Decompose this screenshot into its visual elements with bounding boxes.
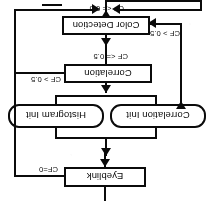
- node-correlation[interactable]: Correlation: [64, 64, 152, 83]
- node-eyeblink[interactable]: Eyeblink: [64, 167, 146, 187]
- node-correlation-label: Correlation: [84, 68, 132, 79]
- eyeblink-cf0-line: [14, 175, 64, 177]
- left-inner-arrowhead: [176, 101, 186, 109]
- left-inner-rail: [180, 25, 182, 103]
- junction-bar-left: [120, 9, 202, 11]
- outer-loop-top-left: [106, 0, 202, 2]
- edge-label-correlation-out: CF <= 0.5: [93, 52, 128, 61]
- eyeblink-in-arrowhead: [100, 159, 110, 167]
- outer-loop-top: [42, 4, 62, 6]
- node-histogram-init-label: Histogram Init: [26, 111, 86, 122]
- colordetection-in-line: [105, 35, 107, 43]
- node-histogram-init[interactable]: Histogram Init: [8, 104, 104, 128]
- node-correlation-init-label: Correlation Init: [126, 111, 189, 122]
- init-bracket-bottom: [55, 95, 157, 97]
- node-color-detection[interactable]: Color Detection: [62, 16, 150, 35]
- node-correlation-init[interactable]: Correlation Init: [110, 104, 206, 128]
- edge-label-eyeblink-out: CF=0: [39, 165, 58, 174]
- init-bracket-bl: [155, 96, 157, 105]
- node-eyeblink-label: Eyeblink: [87, 172, 124, 183]
- node-color-detection-label: Color Detection: [73, 20, 140, 31]
- init-bracket-br: [55, 96, 57, 105]
- junction-bar-right: [14, 9, 96, 11]
- eyeblink-out-stem: [104, 187, 106, 201]
- correlation-in-line2: [105, 81, 107, 93]
- diagram-canvas: Eyeblink Correlation Init Histogram Init…: [0, 0, 216, 201]
- colordetection-back-arrowhead: [148, 18, 156, 28]
- edge-label-colordetection-back: CF > 0.5: [150, 29, 180, 38]
- edge-label-correlation-back: CF > 0.5: [31, 75, 61, 84]
- correlation-back-line: [14, 72, 64, 74]
- outer-loop-left-rail: [200, 0, 202, 11]
- correlation-in-line: [105, 146, 107, 156]
- edge-label-colordetection-out: CF <= 0.5: [89, 4, 124, 13]
- eyeblink-cf0-rail: [14, 10, 16, 177]
